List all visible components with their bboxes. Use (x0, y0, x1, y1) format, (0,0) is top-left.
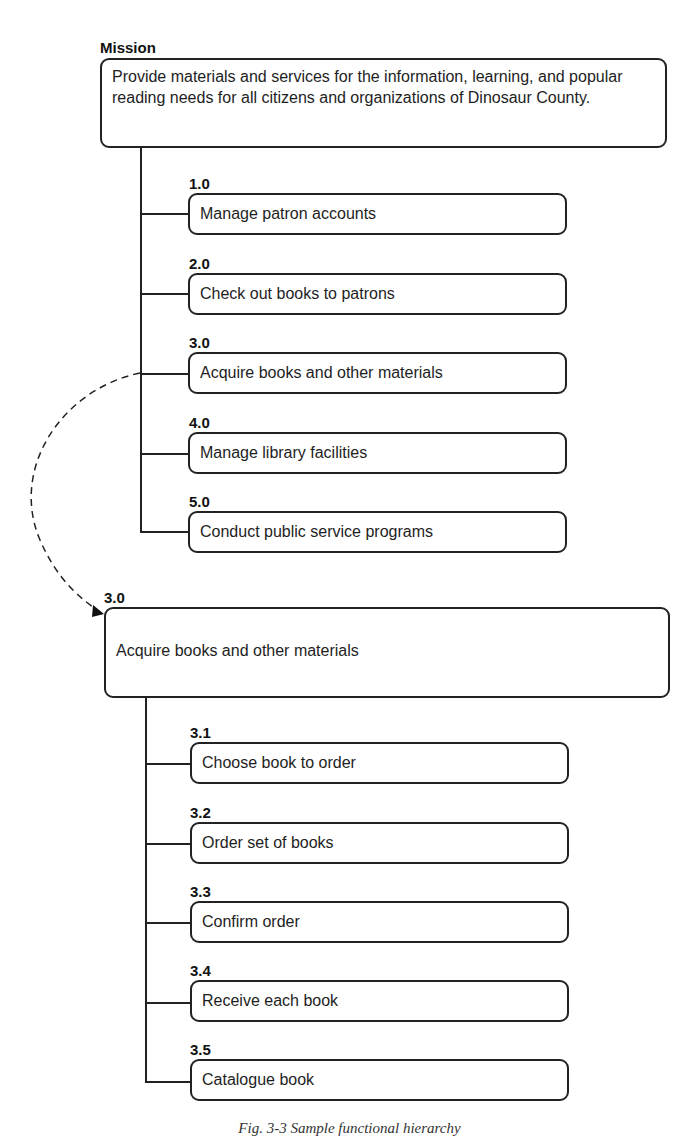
subfunction-text: Choose book to order (202, 754, 356, 772)
connector (145, 1081, 191, 1083)
subfunction-box: Catalogue book (190, 1059, 569, 1101)
subfunction-id: 3.4 (190, 963, 211, 979)
figure-caption: Fig. 3-3 Sample functional hierarchy (0, 1120, 699, 1136)
subfunction-id: 3.1 (190, 725, 211, 741)
connector (145, 763, 191, 765)
connector (145, 843, 191, 845)
tree-trunk-sub (145, 698, 147, 1082)
expanded-id: 3.0 (104, 590, 125, 606)
subfunction-text: Confirm order (202, 913, 300, 931)
arrowhead-icon (92, 605, 104, 617)
subfunction-text: Receive each book (202, 992, 338, 1010)
subfunction-box: Confirm order (190, 901, 569, 943)
expanded-text: Acquire books and other materials (116, 642, 359, 660)
expand-arrow (0, 0, 699, 1136)
subfunction-box: Order set of books (190, 822, 569, 864)
subfunction-box: Choose book to order (190, 742, 569, 784)
expanded-function-box: Acquire books and other materials (104, 607, 670, 698)
subfunction-box: Receive each book (190, 980, 569, 1022)
subfunction-id: 3.2 (190, 805, 211, 821)
connector (145, 922, 191, 924)
subfunction-text: Order set of books (202, 834, 334, 852)
connector (145, 1002, 191, 1004)
subfunction-text: Catalogue book (202, 1071, 314, 1089)
subfunction-id: 3.5 (190, 1042, 211, 1058)
subfunction-id: 3.3 (190, 884, 211, 900)
